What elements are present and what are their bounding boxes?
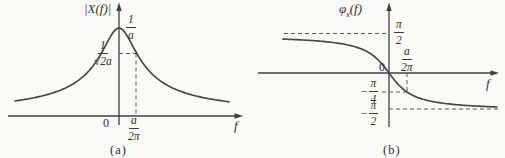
panel-b-caption: (b) (383, 143, 401, 158)
panel-a-y-axis-label: |X(f)| (84, 2, 111, 15)
neg-half-pi-label: − π 2 (361, 100, 378, 127)
panel-b-x-arrow-icon (491, 70, 500, 75)
panel-b-tick-numerator: a (402, 46, 412, 60)
panel-a-y-arrow-icon (116, 3, 121, 12)
panel-b-dashed-lines (284, 34, 499, 110)
panel-b-x-axis-label: f (486, 77, 490, 90)
neg-quarter-pi-numerator: π (369, 78, 379, 92)
half-power-numerator: 1 (98, 40, 108, 54)
panel-a-tick-numerator: a (129, 115, 139, 129)
panel-b-tick-denominator: 2π (401, 60, 413, 73)
peak-fraction-denominator: a (128, 28, 134, 41)
panel-a-tick-fraction: a 2π (128, 115, 140, 142)
figure-frequency-spectra: |X(f)| 1 a 1 √2a 0 a 2π f (a) φx(f) π 2 … (0, 0, 505, 158)
panel-b-tick-fraction: a 2π (401, 46, 413, 73)
panel-b-y-arrow-icon (386, 3, 391, 12)
peak-fraction-numerator: 1 (126, 14, 136, 28)
pos-half-pi-denominator: 2 (396, 33, 402, 46)
pos-half-pi-fraction: π 2 (394, 19, 404, 46)
neg-half-pi-numerator: π (369, 100, 379, 114)
panel-a-origin-label: 0 (103, 117, 109, 129)
half-power-value-fraction: 1 √2a (94, 40, 112, 67)
panel-a-tick-denominator: 2π (128, 129, 140, 142)
panel-a-x-axis-label: f (234, 119, 238, 132)
pos-half-pi-numerator: π (394, 19, 404, 33)
neg-half-pi-minus: − (361, 108, 368, 120)
half-power-denominator: √2a (94, 54, 112, 67)
phi-argument: (f) (350, 1, 362, 16)
panel-a-axes (8, 7, 239, 125)
magnitude-curve (15, 28, 229, 102)
peak-value-fraction: 1 a (126, 14, 136, 41)
neg-half-pi-fraction: π 2 (369, 100, 379, 127)
neg-quarter-pi-minus: − (361, 86, 368, 98)
panel-b-y-axis-label: φx(f) (339, 2, 362, 19)
panel-a-caption: (a) (110, 143, 127, 158)
panel-a-dashed-lines (119, 54, 136, 116)
panel-b-origin-label: 0 (379, 61, 385, 73)
plots-svg (0, 0, 505, 158)
neg-half-pi-denominator: 2 (371, 114, 377, 127)
